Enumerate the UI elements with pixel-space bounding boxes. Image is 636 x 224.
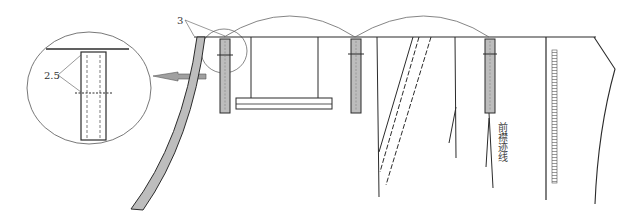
- dimension-label-2-5: 2.5: [44, 70, 60, 81]
- seam-allowance-label-3: 3: [177, 15, 183, 26]
- belt-loop-3: [483, 39, 497, 113]
- curved-fly-strip: [131, 37, 205, 210]
- front-placket: [546, 37, 557, 200]
- connector-arc-1: [224, 16, 355, 37]
- pocket: [236, 37, 332, 109]
- belt-loop-2: [348, 39, 364, 113]
- pattern-diagram: 2.5 3: [0, 0, 636, 224]
- detail-magnifier: [27, 32, 151, 144]
- front-placket-trace-label: 前襟迹线: [496, 122, 507, 162]
- side-seam: [594, 37, 615, 204]
- dart-lines: [377, 37, 493, 197]
- connector-arc-2: [355, 16, 489, 37]
- belt-loop-1: [217, 39, 233, 113]
